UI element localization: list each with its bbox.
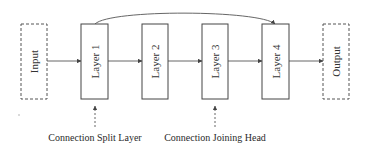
node-output-label: Output [330,46,342,77]
node-layer-4-label: Layer 4 [270,44,282,78]
annotation-split-label: Connection Split Layer [48,132,142,143]
annotation-join-label: Connection Joining Head [164,132,266,143]
node-layer-3-label: Layer 3 [209,44,221,78]
node-layer-4: Layer 4 [262,24,289,99]
stray-dot [18,114,19,115]
node-layer-2: Layer 2 [142,24,168,99]
node-input: Input [21,24,47,99]
node-input-label: Input [28,50,40,73]
node-layer-1: Layer 1 [81,24,108,99]
node-layer-2-label: Layer 2 [149,45,161,79]
node-layer-3: Layer 3 [202,24,228,99]
skip-connection-arrow [95,13,275,24]
diagram-canvas: Input Layer 1 Layer 2 Layer 3 Layer 4 Ou… [0,0,366,148]
node-layer-1-label: Layer 1 [89,45,101,79]
node-output: Output [323,24,349,99]
